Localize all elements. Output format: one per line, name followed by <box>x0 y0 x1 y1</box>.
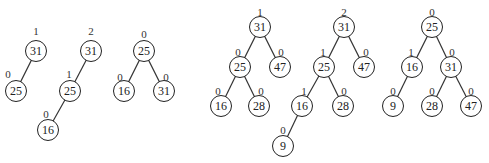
tree-node: 31 <box>249 16 271 38</box>
balance-factor-label: 0 <box>363 46 369 58</box>
balance-factor-label: 0 <box>278 46 284 58</box>
balance-factor-label: 0 <box>235 46 241 58</box>
balance-factor-label: 0 <box>429 6 435 18</box>
balance-factor-label: 0 <box>258 85 264 97</box>
balance-factor-label: 2 <box>341 6 347 18</box>
tree-node: 28 <box>332 95 354 117</box>
balance-factor-label: 0 <box>280 124 286 136</box>
tree-node: 25 <box>59 80 81 102</box>
tree-node: 31 <box>25 40 47 62</box>
balance-factor-label: 1 <box>66 68 72 80</box>
balance-factor-label: 0 <box>449 46 455 58</box>
balance-factor-label: 1 <box>33 25 39 37</box>
tree-node: 47 <box>269 56 291 78</box>
tree-node: 9 <box>272 135 294 157</box>
tree-node: 16 <box>113 80 135 102</box>
tree-node: 25 <box>5 80 27 102</box>
balance-factor-label: 2 <box>88 25 94 37</box>
balance-factor-label: 0 <box>390 85 396 97</box>
tree-node: 25 <box>133 40 155 62</box>
tree-node: 28 <box>248 95 270 117</box>
balance-factor-label: 1 <box>257 6 263 18</box>
balance-factor-label: 0 <box>429 85 435 97</box>
balance-factor-label: 0 <box>43 108 49 120</box>
tree-node: 16 <box>291 95 313 117</box>
tree-node: 16 <box>210 95 232 117</box>
tree-node: 25 <box>421 16 443 38</box>
balance-factor-label: 1 <box>408 46 414 58</box>
avl-tree-diagram: 3112503122511602501603103112504701602803… <box>0 0 489 163</box>
tree-node: 47 <box>460 95 482 117</box>
balance-factor-label: 0 <box>5 68 11 80</box>
balance-factor-label: 1 <box>320 46 326 58</box>
tree-node: 9 <box>382 95 404 117</box>
balance-factor-label: 1 <box>301 85 307 97</box>
tree-node: 47 <box>353 56 375 78</box>
balance-factor-label: 0 <box>341 85 347 97</box>
balance-factor-label: 0 <box>468 85 474 97</box>
tree-node: 16 <box>401 56 423 78</box>
tree-node: 31 <box>440 56 462 78</box>
tree-node: 28 <box>421 95 443 117</box>
tree-node: 31 <box>80 40 102 62</box>
tree-node: 25 <box>229 56 251 78</box>
tree-node: 25 <box>313 56 335 78</box>
balance-factor-label: 0 <box>141 28 147 40</box>
tree-node: 31 <box>333 16 355 38</box>
balance-factor-label: 0 <box>163 71 169 83</box>
balance-factor-label: 0 <box>215 85 221 97</box>
tree-node: 31 <box>153 80 175 102</box>
tree-node: 16 <box>37 119 59 141</box>
balance-factor-label: 0 <box>117 71 123 83</box>
